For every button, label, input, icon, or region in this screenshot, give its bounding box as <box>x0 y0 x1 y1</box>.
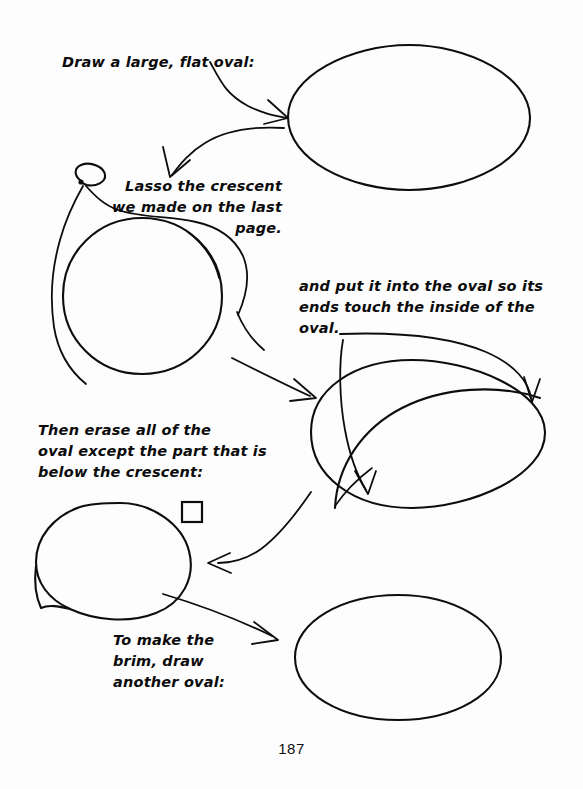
arrow-oval-crescent-to-erased <box>208 492 311 573</box>
scanned-book-page: Draw a large, flat oval: Lasso the cresc… <box>0 0 583 789</box>
figure-oval-bottom <box>295 595 501 720</box>
figure-oval-with-crescent <box>311 360 545 508</box>
leader-curves-into-oval <box>340 334 540 494</box>
page-number: 187 <box>0 740 583 757</box>
caption-draw-oval: Draw a large, flat oval: <box>62 52 255 73</box>
figure-erased-shape <box>35 503 191 620</box>
caption-lasso-crescent: Lasso the crescent we made on the last p… <box>112 176 282 239</box>
figure-oval-top <box>288 45 530 190</box>
caption-erase-oval: Then erase all of the oval except the pa… <box>38 420 267 483</box>
arrow-oval-to-lasso <box>163 128 284 177</box>
caption-make-brim: To make the brim, draw another oval: <box>113 630 225 693</box>
page-artwork <box>0 0 583 789</box>
arrow-lasso-to-oval-crescent <box>232 358 316 401</box>
caption-put-into-oval: and put it into the oval so its ends tou… <box>299 276 543 339</box>
small-square-marker <box>182 502 202 522</box>
